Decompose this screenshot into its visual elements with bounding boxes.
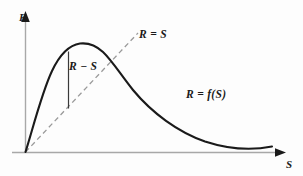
s-axis-label: S <box>286 159 292 170</box>
s-axis-arrowhead <box>275 148 286 157</box>
r-axis-label: R <box>19 12 26 23</box>
recruitment-curve-figure: R S R = S R − S R = f(S) <box>0 0 303 176</box>
replacement-line-label: R = S <box>139 29 167 41</box>
figure-canvas <box>0 0 303 176</box>
recruitment-curve-label: R = f(S) <box>186 89 226 101</box>
surplus-segment-label: R − S <box>69 61 97 73</box>
recruitment-curve-path <box>26 43 273 152</box>
replacement-line-dashed <box>26 33 139 152</box>
